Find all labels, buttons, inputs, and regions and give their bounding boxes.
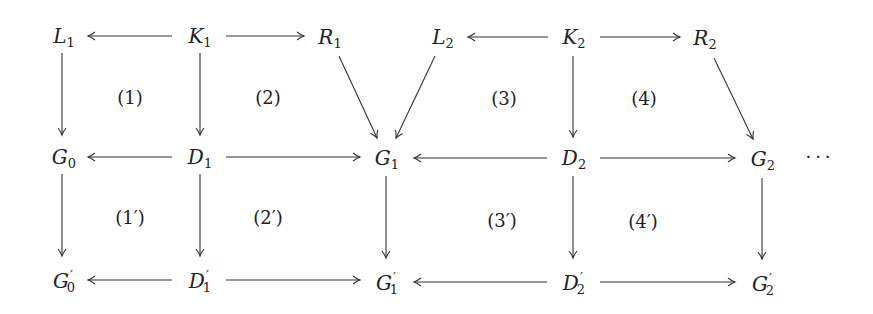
node-K1: K1 <box>188 26 211 49</box>
node-G0: G0 <box>52 147 76 170</box>
square-label-4: (4) <box>631 88 657 109</box>
node-R2: R2 <box>693 28 716 51</box>
node-D1-base: D <box>188 145 204 169</box>
node-K1-sub: 1 <box>203 35 211 50</box>
node-G2: G2 <box>751 149 775 172</box>
square-label-4-prime: (4′) <box>628 211 658 232</box>
node-G1-base: G <box>375 146 391 170</box>
square-label-3: (3) <box>491 88 517 109</box>
square-label-2: (2) <box>255 87 281 108</box>
square-label-2-prime: (2′) <box>253 207 283 228</box>
square-label-1-prime: (1′) <box>115 207 145 228</box>
node-G1-sub: 1 <box>391 157 399 172</box>
node-K2: K2 <box>562 27 585 50</box>
node-D1: D1 <box>188 147 212 170</box>
node-G2-sub: 2 <box>767 158 775 173</box>
node-L1-base: L <box>53 24 66 48</box>
node-G1-prime: G′1 <box>376 271 398 296</box>
node-R2-sub: 2 <box>708 37 716 52</box>
node-K1-base: K <box>188 24 203 48</box>
commutative-diagram: L1 K1 R1 L2 K2 R2 G0 D1 G1 D2 G2 ··· G′0… <box>0 0 873 314</box>
node-K2-base: K <box>562 25 577 49</box>
node-R1-base: R <box>318 25 333 49</box>
node-G2-base: G <box>751 147 767 171</box>
node-K2-sub: 2 <box>577 36 585 51</box>
node-G1: G1 <box>375 148 399 171</box>
node-L1-sub: 1 <box>67 35 75 50</box>
arrow-R2-G2 <box>714 58 753 139</box>
node-L1: L1 <box>53 26 75 49</box>
node-R1-sub: 1 <box>333 36 341 51</box>
node-R1: R1 <box>318 27 341 50</box>
continuation-ellipsis: ··· <box>805 146 834 167</box>
node-R2-base: R <box>693 26 708 50</box>
square-label-1: (1) <box>117 87 143 108</box>
node-G2-prime-sub: 2 <box>766 283 774 298</box>
node-G0-base: G <box>52 145 68 169</box>
node-D2-base: D <box>562 146 578 170</box>
node-L2-base: L <box>432 25 445 49</box>
node-D1-prime: D′1 <box>189 269 211 294</box>
node-D2: D2 <box>562 148 586 171</box>
node-L2: L2 <box>432 27 454 50</box>
node-D2-prime-sub: 2 <box>577 282 585 297</box>
node-D1-sub: 1 <box>204 156 212 171</box>
node-D1-prime-sub: 1 <box>203 280 211 295</box>
square-label-3-prime: (3′) <box>487 210 517 231</box>
node-G2-prime: G′2 <box>752 272 774 297</box>
node-D2-prime: D′2 <box>563 271 585 296</box>
node-L2-sub: 2 <box>446 36 454 51</box>
node-G1-prime-sub: 1 <box>390 282 398 297</box>
node-G0-sub: 0 <box>68 156 76 171</box>
node-G0-prime-sub: 0 <box>67 280 75 295</box>
arrow-R1-G1 <box>339 56 377 138</box>
node-D2-sub: 2 <box>578 157 586 172</box>
node-G0-prime: G′0 <box>53 269 75 294</box>
arrow-L2-G1 <box>396 56 435 138</box>
